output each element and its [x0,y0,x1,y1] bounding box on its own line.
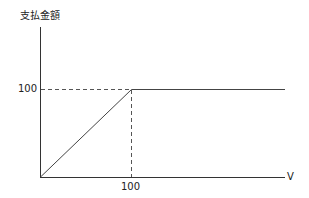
y-axis-label: 支払金額 [20,11,60,21]
payment-chart [0,0,309,198]
payment-curve [41,90,286,178]
x-axis-label: V [287,172,294,182]
y-tick-100: 100 [18,84,37,94]
x-tick-100: 100 [121,182,140,192]
